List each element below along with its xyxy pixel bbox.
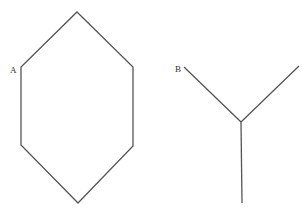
diagram-canvas: A B [0,0,307,211]
hexagon-shape [21,12,133,203]
y-junction-shape [184,66,299,203]
label-b: B [175,64,181,74]
label-a: A [10,65,17,75]
